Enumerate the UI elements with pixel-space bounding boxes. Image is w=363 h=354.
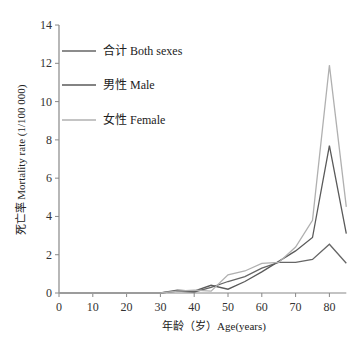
y-tick-label: 2	[46, 248, 52, 262]
legend-label: 男性 Male	[103, 78, 155, 92]
legend-label: 女性 Female	[103, 112, 165, 127]
legend-item: 合计 Both sexes	[62, 43, 183, 58]
x-tick-label: 50	[222, 300, 234, 314]
y-tick-label: 12	[40, 56, 52, 70]
y-tick-label: 14	[40, 18, 52, 32]
series-line-0	[59, 244, 346, 293]
x-tick-label: 80	[323, 300, 335, 314]
legend-item: 男性 Male	[62, 78, 155, 92]
x-axis: 01020304050607080	[56, 293, 346, 314]
y-tick-label: 0	[46, 286, 52, 300]
x-tick-label: 70	[290, 300, 302, 314]
x-tick-label: 0	[56, 300, 62, 314]
y-axis: 02468101214	[40, 18, 59, 300]
y-tick-label: 4	[46, 209, 52, 223]
y-axis-title: 死亡率 Mortality rate (1/100 000)	[14, 84, 28, 235]
mortality-line-chart: 02468101214 01020304050607080 合计 Both se…	[0, 0, 363, 354]
x-tick-label: 40	[188, 300, 200, 314]
series-line-1	[59, 146, 346, 293]
x-tick-label: 30	[154, 300, 166, 314]
x-tick-label: 20	[121, 300, 133, 314]
legend-item: 女性 Female	[62, 112, 165, 127]
series-lines	[59, 65, 346, 293]
y-tick-label: 10	[40, 95, 52, 109]
legend-label: 合计 Both sexes	[103, 43, 183, 58]
x-axis-title: 年龄（岁）Age(years)	[162, 319, 266, 333]
x-tick-label: 60	[256, 300, 268, 314]
legend: 合计 Both sexes男性 Male女性 Female	[62, 43, 183, 127]
y-tick-label: 8	[46, 133, 52, 147]
x-tick-label: 10	[87, 300, 99, 314]
series-line-2	[59, 65, 346, 293]
y-tick-label: 6	[46, 171, 52, 185]
